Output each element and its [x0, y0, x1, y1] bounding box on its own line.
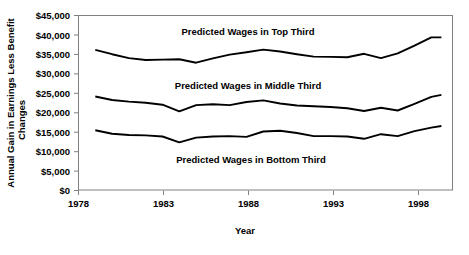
x-tick-label-1978: 1978 [68, 198, 89, 209]
x-tick-label-1998: 1998 [408, 198, 429, 209]
y-tick-label-2: $10,000 [36, 146, 70, 157]
annotation-top-third: Predicted Wages in Top Third [181, 26, 314, 37]
y-tick-label-9: $45,000 [36, 10, 70, 21]
x-axis-title: Year [235, 225, 255, 236]
line-chart: $0 $5,000 $10,000 $15,000 $20,000 $25,00… [0, 0, 469, 255]
y-axis-title-line1: Annual Gain in Earnings Less Benefit [5, 17, 16, 187]
y-tick-label-4: $20,000 [36, 107, 70, 118]
y-axis-title-line2: Changes [16, 100, 27, 140]
chart-container: $0 $5,000 $10,000 $15,000 $20,000 $25,00… [0, 0, 469, 255]
x-tick-label-1988: 1988 [238, 198, 259, 209]
y-tick-label-7: $35,000 [36, 49, 70, 60]
y-tick-label-1: $5,000 [41, 166, 70, 177]
y-tick-label-8: $40,000 [36, 30, 70, 41]
annotation-bottom-third: Predicted Wages in Bottom Third [176, 154, 326, 165]
y-tick-label-6: $30,000 [36, 68, 70, 79]
y-tick-label-0: $0 [59, 185, 70, 196]
chart-background [0, 0, 469, 255]
annotation-middle-third: Predicted Wages in Middle Third [175, 80, 322, 91]
x-tick-label-1983: 1983 [153, 198, 174, 209]
x-tick-label-1993: 1993 [323, 198, 344, 209]
y-tick-label-5: $25,000 [36, 88, 70, 99]
y-tick-label-3: $15,000 [36, 127, 70, 138]
